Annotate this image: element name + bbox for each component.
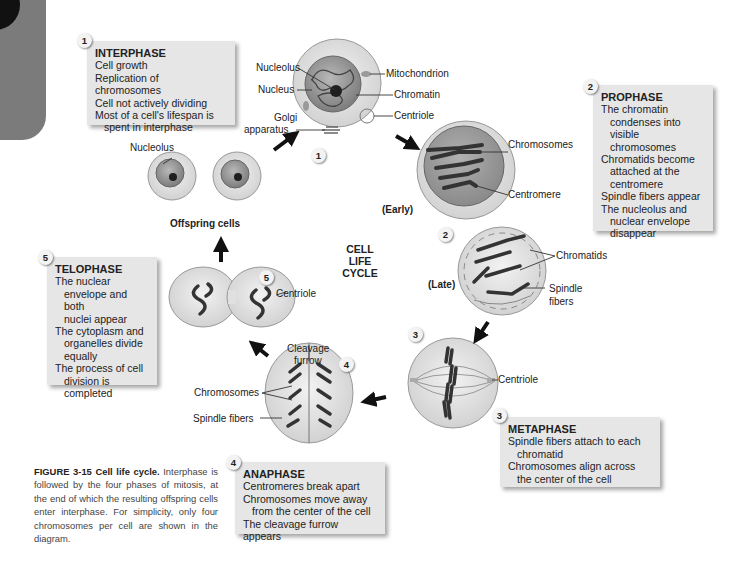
label-centromere: Centromere — [508, 189, 561, 200]
phase-box-telophase: TELOPHASE The nuclear envelope and both … — [47, 257, 157, 385]
label-offspring-cells: Offspring cells — [170, 218, 240, 229]
label-centriole: Centriole — [394, 110, 434, 121]
label-chromosomes: Chromosomes — [508, 139, 573, 150]
phase-box-anaphase: ANAPHASE Centromeres break apart Chromos… — [235, 462, 385, 534]
label-nucleolus: Nucleolus — [256, 62, 300, 73]
phase-line: The nuclear — [55, 275, 149, 287]
label-anaphase-spindle-fibers: Spindle fibers — [193, 413, 254, 424]
phase-number-badge: 3 — [492, 408, 507, 423]
phase-line: nuclear envelope — [601, 215, 705, 227]
label-golgi-2: apparatus — [244, 124, 288, 135]
label-spindle-fibers-2: fibers — [549, 296, 573, 307]
phase-line: the center of the cell — [508, 473, 652, 485]
phase-line: Spindle fibers appear — [601, 190, 705, 202]
phase-line: Centromeres break apart — [243, 480, 377, 492]
phase-line: condenses into visible — [601, 116, 705, 141]
title-line: CELL — [335, 243, 385, 255]
phase-number-badge: 1 — [77, 33, 92, 48]
prophase-late-cell — [458, 227, 546, 315]
phase-line: chromatid — [508, 448, 652, 460]
phase-line: Cell not actively dividing — [95, 97, 227, 109]
label-cleavage-furrow-2: furrow — [294, 355, 322, 366]
metaphase-cell — [408, 338, 498, 428]
offspring-cells — [148, 152, 261, 200]
phase-line: spent in interphase — [95, 121, 227, 133]
label-cleavage-furrow-1: Cleavage — [287, 343, 329, 354]
label-nucleus: Nucleus — [258, 84, 294, 95]
phase-line: Cell growth — [95, 59, 227, 71]
phase-title: INTERPHASE — [95, 47, 227, 59]
title-line: LIFE — [335, 255, 385, 267]
phase-line: Chromosomes move away — [243, 493, 377, 505]
phase-number-badge: 5 — [38, 250, 53, 265]
phase-line: attached at the — [601, 165, 705, 177]
title-line: CYCLE — [335, 267, 385, 279]
label-metaphase-centriole: Centriole — [498, 374, 538, 385]
label-mitochondrion: Mitochondrion — [386, 68, 449, 79]
label-early: (Early) — [382, 204, 413, 215]
label-anaphase-chromosomes: Chromosomes — [194, 387, 259, 398]
phase-line: centromere — [601, 178, 705, 190]
phase-line: from the center of the cell — [243, 505, 377, 517]
phase-box-prophase: PROPHASE The chromatin condenses into vi… — [593, 85, 713, 231]
phase-line: disappear — [601, 227, 705, 239]
phase-line: envelope and both — [55, 288, 149, 313]
phase-line: Most of a cell's lifespan is — [95, 109, 227, 121]
phase-number-badge: 4 — [226, 455, 241, 470]
cell-life-cycle-title: CELL LIFE CYCLE — [335, 243, 385, 279]
interphase-cell — [293, 39, 381, 133]
phase-line: organelles divide — [55, 337, 149, 349]
phase-line: equally — [55, 350, 149, 362]
phase-line: chromosomes — [601, 141, 705, 153]
figure-caption: FIGURE 3-15 Cell life cycle. Interphase … — [34, 465, 218, 545]
phase-title: ANAPHASE — [243, 468, 377, 480]
phase-line: Spindle fibers attach to each — [508, 435, 652, 447]
phase-box-interphase: INTERPHASE Cell growth Replication of ch… — [87, 41, 235, 125]
prophase-early-cell — [417, 121, 515, 219]
phase-line: The cytoplasm and — [55, 325, 149, 337]
phase-title: TELOPHASE — [55, 263, 149, 275]
label-offspring-nucleolus: Nucleolus — [130, 142, 174, 153]
label-chromatids: Chromatids — [556, 250, 607, 261]
phase-line: Chromatids become — [601, 153, 705, 165]
phase-line: The nucleolus and — [601, 203, 705, 215]
phase-title: METAPHASE — [508, 423, 652, 435]
phase-line: Chromosomes align across — [508, 460, 652, 472]
phase-box-metaphase: METAPHASE Spindle fibers attach to each … — [500, 417, 660, 487]
cell-badge-1: 1 — [311, 148, 326, 163]
phase-line: Replication of chromosomes — [95, 72, 227, 97]
label-golgi-1: Golgi — [274, 112, 297, 123]
phase-line: The cleavage furrow appears — [243, 518, 377, 543]
cell-badge-3: 3 — [408, 327, 423, 342]
phase-title: PROPHASE — [601, 91, 705, 103]
label-chromatin: Chromatin — [394, 89, 440, 100]
caption-body: Interphase is followed by the four phase… — [34, 466, 218, 544]
label-telophase-centriole: Centriole — [276, 288, 316, 299]
phase-line: The chromatin — [601, 103, 705, 115]
phase-number-badge: 2 — [583, 79, 598, 94]
label-spindle-fibers-1: Spindle — [549, 283, 582, 294]
phase-line: completed — [55, 387, 149, 399]
cell-badge-2: 2 — [438, 227, 453, 242]
label-late: (Late) — [428, 279, 455, 290]
caption-title: FIGURE 3-15 Cell life cycle. — [34, 466, 160, 477]
phase-line: The process of cell — [55, 362, 149, 374]
phase-line: nuclei appear — [55, 313, 149, 325]
cell-badge-4: 4 — [339, 357, 354, 372]
cell-badge-5: 5 — [259, 270, 274, 285]
phase-line: division is — [55, 375, 149, 387]
